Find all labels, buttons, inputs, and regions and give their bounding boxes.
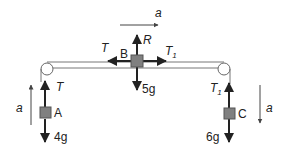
block-a-label: A <box>54 106 62 120</box>
block-a <box>40 107 51 118</box>
acceleration-label-c: a <box>266 101 273 115</box>
left-pulley <box>41 63 53 75</box>
block-a-group: A T 4g a <box>16 80 67 144</box>
tension-label-a: T <box>56 80 65 94</box>
acceleration-label-a: a <box>16 101 23 115</box>
weight-label-a: 4g <box>54 130 67 144</box>
block-c-group: C T1 6g a <box>206 81 273 144</box>
block-c-label: C <box>238 107 247 121</box>
tension-label-c: T1 <box>210 81 222 97</box>
right-pulley <box>218 63 230 75</box>
reaction-label: R <box>143 33 152 47</box>
block-c <box>224 108 235 119</box>
top-acceleration-label: a <box>155 6 162 20</box>
block-b-group: B R T T1 5g <box>101 33 177 96</box>
top-acceleration: a <box>120 6 162 25</box>
block-b <box>131 55 143 67</box>
weight-label-b: 5g <box>142 82 155 96</box>
block-b-label: B <box>120 47 128 61</box>
pulley-diagram: a B R T T1 5g A T 4g a C T1 6g a <box>0 0 283 153</box>
weight-label-c: 6g <box>206 130 219 144</box>
tension-left-label-b: T <box>101 41 110 55</box>
tension-right-label-b: T1 <box>165 44 177 60</box>
